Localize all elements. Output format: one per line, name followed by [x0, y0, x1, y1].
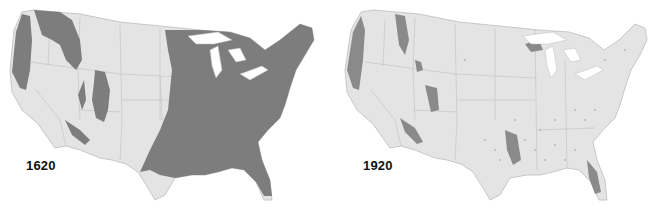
us-forest-map-1620 [0, 0, 324, 211]
map-panel-1920: 1920 [325, 0, 649, 211]
year-label: 1620 [26, 158, 56, 173]
us-forest-map-1920 [325, 0, 649, 211]
year-label: 1920 [363, 158, 393, 173]
map-panel-1620: 1620 [0, 0, 324, 211]
